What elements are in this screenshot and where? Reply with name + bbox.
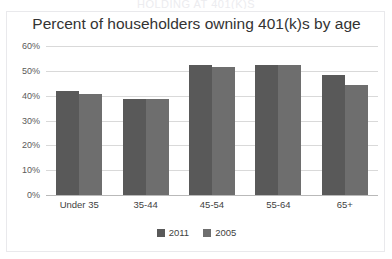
bar-2005-45-54 <box>212 67 235 195</box>
bar-2011-under-35 <box>56 91 79 195</box>
bar-group <box>322 46 368 195</box>
chart-container: Percent of householders owning 401(k)s b… <box>6 11 385 252</box>
legend-item-2005[interactable]: 2005 <box>203 227 236 238</box>
chart-legend: 20112005 <box>7 227 386 238</box>
x-axis-label-2: 45-54 <box>179 199 245 210</box>
bar-2011-55-64 <box>255 65 278 195</box>
bar-2005-65+ <box>345 85 368 195</box>
plot-area: 60%50%40%30%20%10%0% <box>46 46 378 195</box>
y-axis-tick-label: 10% <box>22 165 40 175</box>
bar-2011-45-54 <box>189 65 212 195</box>
x-axis-label-3: 55-64 <box>245 199 311 210</box>
legend-label-2005: 2005 <box>215 227 236 238</box>
bar-group <box>123 46 169 195</box>
y-axis-tick-label: 50% <box>22 66 40 76</box>
legend-swatch-2011 <box>157 229 165 237</box>
y-axis-tick-label: 60% <box>22 41 40 51</box>
bar-2011-65+ <box>322 75 345 195</box>
legend-item-2011[interactable]: 2011 <box>157 227 189 238</box>
bar-2005-35-44 <box>146 99 169 195</box>
cropped-header-text: HOLDING AT 401(K)S <box>0 0 392 9</box>
x-axis-labels: Under 3535-4445-5455-6465+ <box>46 199 378 210</box>
bar-group <box>255 46 301 195</box>
y-axis-tick-label: 30% <box>22 116 40 126</box>
bar-2011-35-44 <box>123 99 146 195</box>
bar-group <box>189 46 235 195</box>
gridline: 0% <box>46 195 378 196</box>
bar-2005-under-35 <box>79 94 102 195</box>
chart-title: Percent of householders owning 401(k)s b… <box>7 15 386 33</box>
bar-groups <box>46 46 378 195</box>
x-axis-label-1: 35-44 <box>112 199 178 210</box>
bar-group <box>56 46 102 195</box>
x-axis-label-0: Under 35 <box>46 199 112 210</box>
x-axis-label-4: 65+ <box>312 199 378 210</box>
bar-2005-55-64 <box>278 65 301 195</box>
legend-label-2011: 2011 <box>169 227 189 238</box>
y-axis-tick-label: 20% <box>22 140 40 150</box>
y-axis-tick-label: 40% <box>22 91 40 101</box>
y-axis-tick-label: 0% <box>27 190 40 200</box>
legend-swatch-2005 <box>203 229 211 237</box>
